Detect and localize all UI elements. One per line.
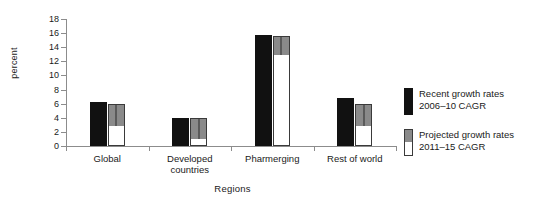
legend-swatch-projected-upper [405,130,412,142]
legend-label-projected: Projected growth rates 2011–15 CAGR [419,129,514,152]
bar-projected-upper-segment [109,105,124,126]
legend-swatch-projected-icon [404,129,413,156]
y-tick-label: 18 [49,15,59,24]
y-tick-label: 14 [49,43,59,52]
bar-projected-upper-segment [356,105,371,126]
bar-projected-upper-segment [191,119,206,139]
category-label: Global [66,153,149,164]
bar-projected-center-rule [116,105,117,126]
bar-recent-growth [337,98,354,146]
y-axis-line [66,19,67,146]
category-label: Rest of world [314,153,397,164]
chart-legend: Recent growth rates 2006–10 CAGR Project… [404,88,549,170]
x-tick-mark [396,146,397,151]
category-label: Developed countries [149,153,232,175]
y-tick-label: 4 [54,113,59,122]
bar-projected-center-rule [198,119,199,139]
bar-projected-growth [108,104,125,146]
legend-swatch-recent-icon [404,88,413,115]
y-tick-label: 2 [54,127,59,136]
bar-projected-growth [273,36,290,146]
y-tick-label: 8 [54,85,59,94]
category-label: Pharmerging [231,153,314,164]
y-tick-mark [61,19,66,20]
bar-group [255,19,290,146]
y-tick-mark [61,47,66,48]
y-tick-mark [61,132,66,133]
bar-projected-growth [190,118,207,146]
y-tick-label: 0 [54,142,59,151]
bar-recent-growth [172,118,189,146]
y-tick-mark [61,90,66,91]
y-tick-mark [61,61,66,62]
x-tick-mark [149,146,150,151]
y-tick-mark [61,118,66,119]
plot-area: 024681012141618 GlobalDeveloped countrie… [66,19,396,146]
x-axis-title: Regions [60,183,405,194]
legend-item-projected: Projected growth rates 2011–15 CAGR [404,129,549,156]
y-tick-mark [61,75,66,76]
bar-group [172,19,207,146]
y-tick-label: 16 [49,29,59,38]
legend-label-recent: Recent growth rates 2006–10 CAGR [419,88,504,111]
y-tick-label: 12 [49,57,59,66]
bar-projected-upper-segment [274,37,289,55]
bar-recent-growth [90,102,107,146]
bar-group [337,19,372,146]
y-tick-mark [61,104,66,105]
y-axis-title: percent [9,33,19,93]
y-tick-mark [61,33,66,34]
x-tick-mark [314,146,315,151]
bar-group [90,19,125,146]
legend-item-recent: Recent growth rates 2006–10 CAGR [404,88,549,115]
bar-projected-center-rule [281,37,282,55]
x-tick-mark [231,146,232,151]
x-tick-mark [66,146,67,151]
bar-recent-growth [255,35,272,146]
y-tick-label: 10 [49,71,59,80]
bar-projected-center-rule [363,105,364,126]
y-tick-label: 6 [54,99,59,108]
bar-projected-growth [355,104,372,146]
bar-chart-figure: percent Regions 024681012141618 GlobalDe… [0,0,551,201]
